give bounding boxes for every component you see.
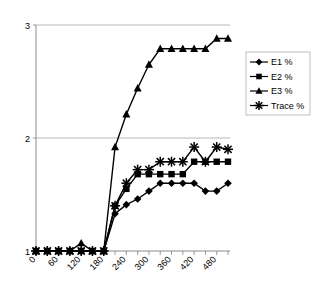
x-tick-label: 120 — [65, 254, 83, 272]
data-point-marker — [155, 157, 165, 167]
data-point-marker — [134, 84, 142, 91]
data-point-marker — [110, 201, 120, 211]
data-point-marker — [76, 246, 86, 256]
data-point-marker — [99, 246, 109, 256]
data-point-marker — [168, 179, 176, 187]
series-3 — [32, 34, 232, 254]
data-point-marker — [42, 246, 52, 256]
x-tick-label: 60 — [46, 254, 60, 268]
data-point-marker — [87, 246, 97, 256]
x-tick-label: 240 — [110, 254, 128, 272]
data-point-marker — [191, 159, 197, 165]
data-point-marker — [122, 110, 130, 117]
y-tick-label: 2 — [25, 134, 30, 144]
series-layer — [31, 34, 233, 256]
x-tick-label: 300 — [133, 254, 151, 272]
series-4 — [31, 142, 233, 256]
chart-container: 123 060120180240300360420480 E1 %E2 %E3 … — [0, 0, 327, 292]
series-line — [36, 162, 228, 251]
data-point-marker — [77, 239, 85, 246]
legend-label: E3 % — [271, 86, 293, 96]
x-tick-label: 360 — [155, 254, 173, 272]
chart-legend: E1 %E2 %E3 %Trace % — [246, 52, 310, 115]
line-chart: 123 060120180240300360420480 E1 %E2 %E3 … — [0, 0, 327, 292]
series-line — [36, 39, 228, 251]
data-point-marker — [225, 159, 231, 165]
x-tick-label: 180 — [87, 254, 105, 272]
data-point-marker — [157, 171, 163, 177]
data-point-marker — [144, 165, 154, 175]
data-point-marker — [65, 246, 75, 256]
series-2 — [33, 159, 231, 255]
gridlines — [36, 25, 230, 138]
x-axis-tick-labels: 060120180240300360420480 — [27, 254, 218, 272]
series-line — [36, 183, 228, 251]
data-point-marker — [223, 144, 233, 154]
legend-label: E2 % — [271, 72, 293, 82]
data-point-marker — [31, 246, 41, 256]
data-point-marker — [167, 157, 177, 167]
data-point-marker — [121, 178, 131, 188]
data-point-marker — [168, 171, 174, 177]
data-point-marker — [180, 171, 186, 177]
data-point-marker — [179, 179, 187, 187]
y-tick-label: 3 — [25, 21, 30, 31]
legend-label: E1 % — [271, 57, 293, 67]
legend-label: Trace % — [271, 101, 304, 111]
x-tick-label: 420 — [178, 254, 196, 272]
y-axis-tick-labels: 123 — [25, 21, 30, 257]
data-point-marker — [189, 142, 199, 152]
square-icon — [256, 74, 262, 80]
x-axis-ticks — [33, 25, 228, 255]
data-point-marker — [54, 246, 64, 256]
data-point-marker — [200, 157, 210, 167]
star-icon — [254, 101, 263, 110]
data-point-marker — [133, 165, 143, 175]
data-point-marker — [178, 157, 188, 167]
data-point-marker — [111, 143, 119, 150]
series-line — [36, 147, 228, 251]
x-tick-label: 480 — [200, 254, 218, 272]
data-point-marker — [214, 159, 220, 165]
series-1 — [32, 179, 232, 254]
data-point-marker — [212, 142, 222, 152]
